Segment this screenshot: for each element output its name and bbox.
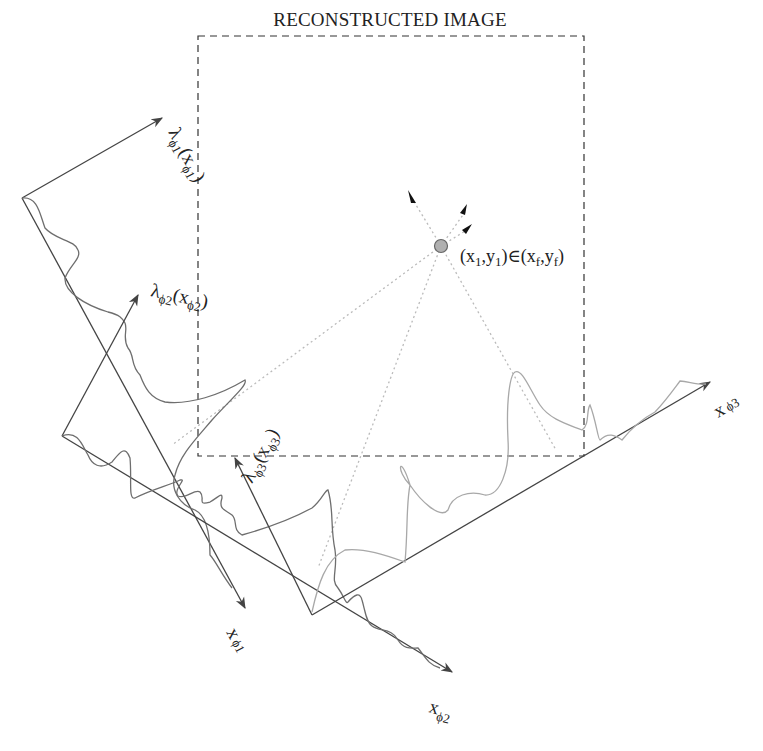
- position-axis-phi1: [22, 198, 245, 608]
- point-label: (x1,y1)∈(xf,yf): [460, 246, 564, 269]
- profile-axis-phi1: [22, 118, 162, 198]
- axis-label-phi3: xϕ3: [710, 390, 743, 421]
- projection-phi2: λϕ2(xϕ2) xϕ2: [62, 279, 454, 726]
- axis-label-phi2: xϕ2: [426, 696, 455, 727]
- ray-to-phi3-axis-left: [318, 246, 441, 568]
- arrowhead-icon: [460, 204, 467, 215]
- ray-to-phi3-axis-right: [441, 246, 556, 450]
- axis-label-phi1: xϕ1: [222, 624, 252, 656]
- diagram-svg: RECONSTRUCTED IMAGE (x1,y1)∈(xf,yf) λϕ1(…: [0, 0, 763, 751]
- projection-phi1: λϕ1(xϕ1) xϕ1: [22, 118, 253, 656]
- sample-point: [435, 240, 448, 253]
- projection-phi3: λϕ3(xϕ3) xϕ3: [235, 372, 742, 615]
- arrowhead-icon: [408, 190, 416, 203]
- position-axis-phi3: [312, 382, 710, 615]
- profile-label-phi1: λϕ1(xϕ1): [161, 124, 210, 187]
- profile-label-phi2: λϕ2(xϕ2): [148, 279, 210, 316]
- profile-axis-phi2: [62, 295, 138, 436]
- backprojection-rays: [172, 195, 556, 568]
- ray-to-phi2-axis: [172, 246, 441, 445]
- diagram-title: RECONSTRUCTED IMAGE: [273, 9, 506, 30]
- direction-arrowheads: [408, 190, 472, 234]
- diagram-canvas: RECONSTRUCTED IMAGE (x1,y1)∈(xf,yf) λϕ1(…: [0, 0, 763, 751]
- profile-curve-phi1: [22, 198, 245, 588]
- profile-curve-phi3: [312, 372, 706, 612]
